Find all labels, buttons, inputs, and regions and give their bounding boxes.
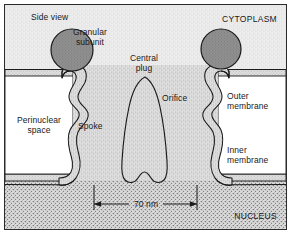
label-outer-membrane: Outer membrane [227, 91, 268, 111]
granular-subunit-right [201, 29, 241, 69]
label-orifice: Orifice [162, 93, 187, 103]
label-side-view: Side view [31, 12, 68, 22]
label-nucleus: NUCLEUS [181, 211, 277, 221]
label-dimension-70nm: 70 nm [121, 199, 171, 209]
label-spoke: Spoke [78, 121, 103, 131]
figure-root: Side view Granular subunit CYTOPLASM Cen… [0, 0, 291, 237]
label-central-plug: Central plug [112, 53, 176, 73]
label-cytoplasm: CYTOPLASM [181, 14, 277, 24]
label-granular-subunit: Granular subunit [55, 27, 125, 47]
label-inner-membrane: Inner membrane [227, 145, 268, 165]
figure-frame: Side view Granular subunit CYTOPLASM Cen… [4, 4, 287, 230]
label-perinuclear-space: Perinuclear space [8, 115, 70, 135]
